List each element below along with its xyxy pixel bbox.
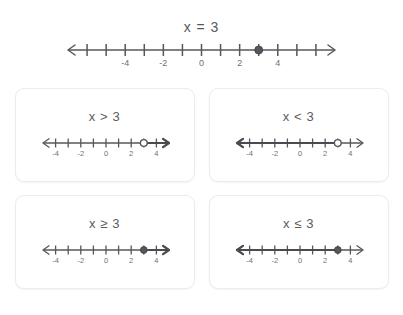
closed-endpoint-dot — [255, 46, 263, 54]
main-number-line: -4-2024 — [0, 36, 403, 80]
card-greater-or-equal[interactable]: x ≥ 3 -4-2024 — [15, 195, 195, 289]
open-endpoint-dot — [334, 140, 341, 147]
card-title-less-than: x < 3 — [210, 108, 388, 125]
inequality-card-grid: x > 3 -4-2024 x < 3 -4-2024 x ≥ 3 -4-202… — [0, 88, 403, 308]
axis-tick-label: 0 — [103, 256, 107, 265]
axis-tick-label: -2 — [271, 149, 278, 158]
card-title-greater-or-equal: x ≥ 3 — [16, 215, 194, 232]
axis-tick-label: -2 — [77, 149, 84, 158]
axis-tick-label: 0 — [297, 149, 301, 158]
closed-endpoint-dot — [334, 247, 341, 254]
axis-tick-label: -2 — [77, 256, 84, 265]
card-greater-than[interactable]: x > 3 -4-2024 — [15, 88, 195, 182]
number-line-less-than: -4-2024 — [210, 131, 389, 175]
axis-tick-label: 4 — [348, 256, 352, 265]
axis-tick-label: 2 — [129, 149, 133, 158]
axis-tick-label: 4 — [154, 149, 158, 158]
axis-tick-label: -4 — [121, 58, 129, 68]
axis-tick-label: 0 — [199, 58, 204, 68]
number-line-greater-than: -4-2024 — [16, 131, 195, 175]
main-number-line-section: x = 3 -4-2024 — [0, 18, 403, 86]
axis-tick-label: 2 — [323, 256, 327, 265]
axis-tick-label: -2 — [159, 58, 167, 68]
axis-tick-label: 0 — [103, 149, 107, 158]
axis-tick-label: 4 — [348, 149, 352, 158]
axis-tick-label: 2 — [237, 58, 242, 68]
axis-tick-label: 2 — [129, 256, 133, 265]
axis-tick-label: 4 — [275, 58, 280, 68]
card-less-or-equal[interactable]: x ≤ 3 -4-2024 — [209, 195, 389, 289]
axis-tick-label: -4 — [52, 149, 59, 158]
closed-endpoint-dot — [140, 247, 147, 254]
number-line-greater-or-equal: -4-2024 — [16, 238, 195, 282]
main-equation-title: x = 3 — [0, 18, 403, 36]
open-endpoint-dot — [140, 140, 147, 147]
number-line-less-or-equal: -4-2024 — [210, 238, 389, 282]
axis-tick-label: -4 — [52, 256, 59, 265]
axis-tick-label: -2 — [271, 256, 278, 265]
axis-tick-label: 4 — [154, 256, 158, 265]
card-title-less-or-equal: x ≤ 3 — [210, 215, 388, 232]
card-less-than[interactable]: x < 3 -4-2024 — [209, 88, 389, 182]
axis-tick-label: 0 — [297, 256, 301, 265]
axis-tick-label: 2 — [323, 149, 327, 158]
axis-tick-label: -4 — [246, 149, 253, 158]
card-title-greater-than: x > 3 — [16, 108, 194, 125]
axis-tick-label: -4 — [246, 256, 253, 265]
